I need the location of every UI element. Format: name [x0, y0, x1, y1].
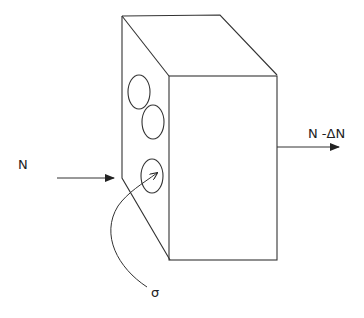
hole-circles — [128, 75, 164, 193]
output-force-label: N -ΔN — [308, 127, 345, 140]
hole-top — [128, 75, 150, 109]
stress-label: σ — [151, 286, 159, 299]
stress-pointer-arrow — [111, 173, 157, 287]
block-left-face — [122, 16, 170, 260]
input-force-label: N — [18, 158, 28, 171]
block-diagram — [0, 0, 364, 318]
block-front-face — [169, 76, 277, 260]
block-top-face — [122, 15, 277, 76]
hole-middle — [142, 105, 164, 139]
